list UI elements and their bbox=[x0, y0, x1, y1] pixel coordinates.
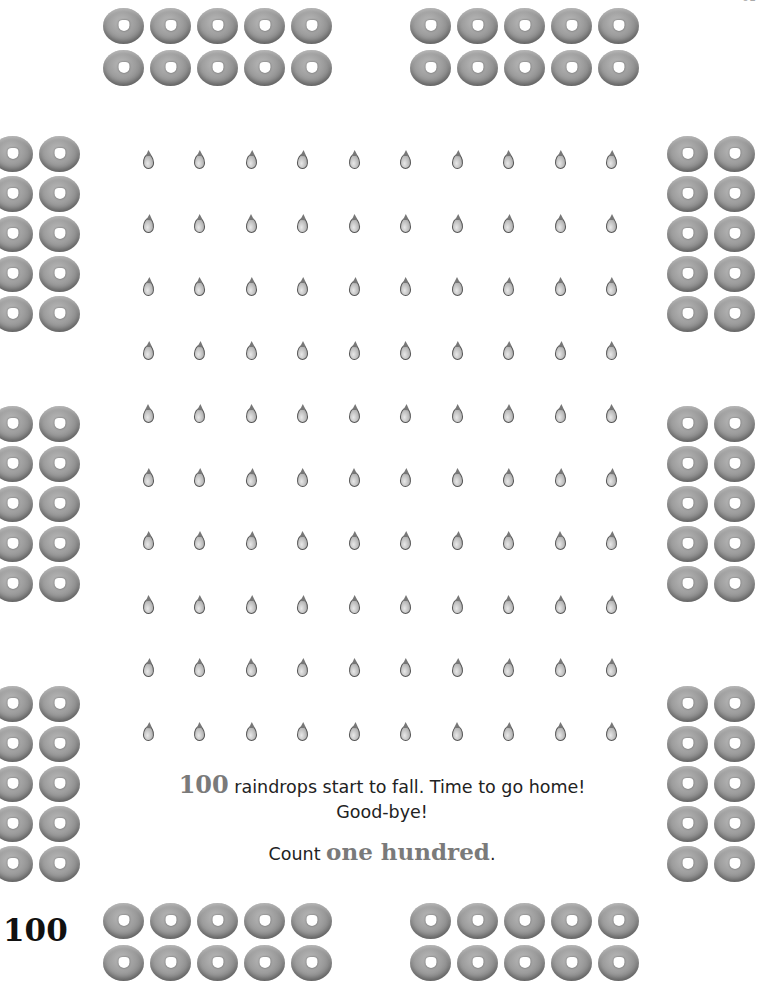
raindrop-cell bbox=[398, 511, 414, 575]
raindrop-cell bbox=[192, 575, 208, 639]
raindrop-icon bbox=[246, 662, 257, 677]
raindrop-cell bbox=[192, 448, 208, 512]
cereal-ring-icon bbox=[598, 8, 639, 44]
cereal-ring-icon bbox=[410, 903, 451, 939]
raindrop-icon bbox=[348, 281, 360, 297]
raindrop-icon bbox=[606, 726, 617, 741]
raindrop-cell bbox=[346, 130, 362, 194]
donut-group-left-1 bbox=[0, 136, 80, 332]
raindrop-cell bbox=[295, 511, 311, 575]
raindrop-icon bbox=[245, 471, 257, 487]
raindrop-cell bbox=[140, 511, 156, 575]
cereal-ring-icon bbox=[667, 686, 708, 722]
raindrop-icon bbox=[194, 599, 205, 614]
raindrop-icon bbox=[451, 408, 463, 423]
cereal-ring-icon bbox=[667, 486, 708, 522]
raindrop-cell bbox=[243, 511, 259, 575]
raindrop-cell bbox=[501, 575, 517, 639]
cereal-ring-icon bbox=[150, 903, 191, 939]
raindrop-icon bbox=[503, 726, 515, 741]
raindrop-icon bbox=[503, 662, 515, 678]
raindrop-cell bbox=[295, 575, 311, 639]
donut-group-right-1 bbox=[667, 136, 755, 332]
raindrop-cell bbox=[552, 384, 568, 448]
raindrop-cell bbox=[398, 194, 414, 258]
raindrop-icon bbox=[297, 154, 309, 170]
raindrop-cell bbox=[449, 702, 465, 766]
cereal-ring-icon bbox=[0, 486, 33, 522]
cereal-ring-icon bbox=[39, 136, 80, 172]
cereal-ring-icon bbox=[410, 50, 451, 86]
raindrop-cell bbox=[552, 575, 568, 639]
story-text-2: Good-bye! bbox=[336, 802, 428, 822]
raindrop-icon bbox=[400, 726, 412, 741]
raindrop-cell bbox=[295, 257, 311, 321]
raindrop-cell bbox=[449, 321, 465, 385]
raindrop-cell bbox=[295, 448, 311, 512]
raindrop-cell bbox=[449, 575, 465, 639]
raindrop-icon bbox=[194, 218, 206, 233]
raindrop-icon bbox=[606, 218, 617, 233]
raindrop-cell bbox=[140, 448, 156, 512]
raindrop-cell bbox=[295, 638, 311, 702]
donut-group-left-2 bbox=[0, 406, 80, 602]
raindrop-cell bbox=[552, 194, 568, 258]
raindrop-cell bbox=[552, 130, 568, 194]
cereal-ring-icon bbox=[714, 686, 755, 722]
cereal-ring-icon bbox=[504, 903, 545, 939]
raindrop-icon bbox=[246, 218, 257, 233]
raindrop-cell bbox=[604, 448, 620, 512]
raindrop-cell bbox=[398, 130, 414, 194]
raindrop-cell bbox=[449, 448, 465, 512]
cereal-ring-icon bbox=[150, 945, 191, 981]
raindrop-cell bbox=[552, 321, 568, 385]
raindrop-icon bbox=[348, 154, 360, 169]
raindrop-cell bbox=[398, 257, 414, 321]
raindrop-icon bbox=[451, 154, 463, 169]
donut-group-bottom-left bbox=[103, 903, 332, 981]
raindrop-cell bbox=[243, 702, 259, 766]
raindrop-cell bbox=[243, 638, 259, 702]
raindrop-icon bbox=[400, 344, 412, 360]
raindrop-icon bbox=[348, 535, 359, 550]
raindrop-icon bbox=[554, 408, 566, 423]
raindrop-icon bbox=[451, 535, 463, 551]
raindrop-icon bbox=[606, 599, 617, 614]
raindrop-cell bbox=[604, 257, 620, 321]
cereal-ring-icon bbox=[714, 256, 755, 292]
cereal-ring-icon bbox=[291, 945, 332, 981]
raindrop-cell bbox=[243, 384, 259, 448]
raindrop-icon bbox=[194, 472, 205, 487]
raindrop-icon bbox=[142, 154, 154, 170]
raindrop-icon bbox=[400, 218, 411, 233]
raindrop-icon bbox=[297, 726, 308, 741]
raindrop-cell bbox=[398, 384, 414, 448]
raindrop-cell bbox=[243, 257, 259, 321]
raindrop-cell bbox=[295, 130, 311, 194]
raindrop-cell bbox=[346, 384, 362, 448]
raindrop-icon bbox=[606, 471, 618, 487]
cereal-ring-icon bbox=[150, 50, 191, 86]
raindrop-icon bbox=[297, 598, 309, 614]
raindrop-icon bbox=[142, 345, 153, 360]
raindrop-icon bbox=[503, 535, 515, 550]
count-prefix: Count bbox=[269, 844, 327, 864]
raindrop-icon bbox=[194, 154, 205, 169]
cereal-ring-icon bbox=[0, 566, 33, 602]
raindrop-cell bbox=[501, 702, 517, 766]
cereal-ring-icon bbox=[457, 903, 498, 939]
cereal-ring-icon bbox=[39, 256, 80, 292]
raindrop-cell bbox=[449, 194, 465, 258]
raindrop-icon bbox=[606, 535, 618, 550]
raindrop-icon bbox=[194, 725, 206, 741]
cereal-ring-icon bbox=[598, 945, 639, 981]
donut-group-top-left bbox=[103, 8, 332, 86]
raindrop-cell bbox=[243, 194, 259, 258]
cereal-ring-icon bbox=[244, 8, 285, 44]
cereal-ring-icon bbox=[551, 945, 592, 981]
raindrop-icon bbox=[245, 599, 256, 614]
raindrop-cell bbox=[604, 702, 620, 766]
raindrop-cell bbox=[243, 321, 259, 385]
donut-group-top-right bbox=[410, 8, 639, 86]
raindrop-cell bbox=[192, 511, 208, 575]
